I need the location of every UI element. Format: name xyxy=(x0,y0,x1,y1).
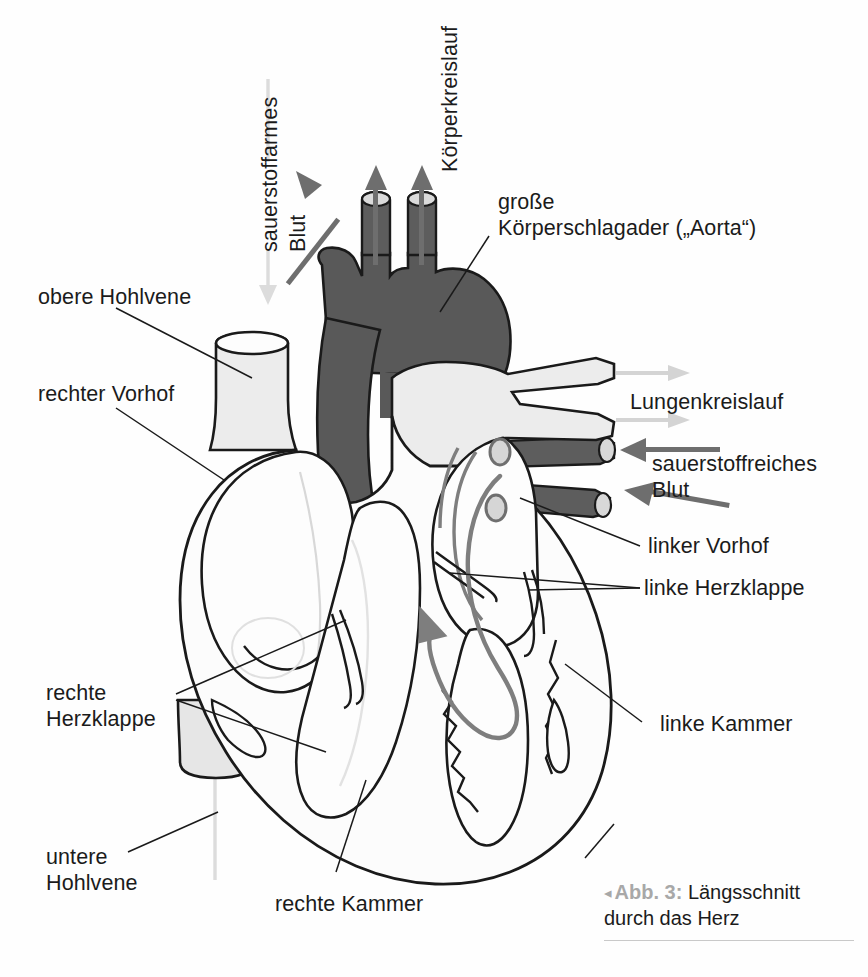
deoxy-arrow-head xyxy=(296,171,322,199)
pulmonary-vein-ostium-upper xyxy=(490,439,510,465)
figure-caption: ◂Abb. 3: Längsschnittdurch das Herz xyxy=(604,880,854,931)
label-left-ventricle: linke Kammer xyxy=(660,712,793,737)
systemic-arrow-2-shaft xyxy=(419,190,424,265)
label-deoxygenated-blood-line1: sauerstoffarmes xyxy=(258,97,283,252)
label-pulmonary-circulation: Lungenkreislauf xyxy=(630,390,783,415)
caption-figure-number: Abb. 3: xyxy=(615,881,683,903)
caption-divider xyxy=(604,940,854,941)
systemic-arrow-1-shaft xyxy=(373,190,378,265)
label-right-heart-valve-line2: Herzklappe xyxy=(46,707,156,732)
caption-text-line2: durch das Herz xyxy=(604,907,740,929)
label-left-atrium: linker Vorhof xyxy=(648,534,769,559)
label-aorta-line2: Körperschlagader („Aorta“) xyxy=(498,216,756,241)
caption-marker-icon: ◂ xyxy=(604,884,612,901)
label-right-ventricle: rechte Kammer xyxy=(275,892,423,917)
label-left-heart-valve: linke Herzklappe xyxy=(644,576,805,601)
pulmonary-vein-upper-lumen xyxy=(599,438,615,462)
label-deoxygenated-blood-line2: Blut xyxy=(286,215,311,252)
oxyrich-arrow-1-head xyxy=(620,438,646,462)
label-systemic-circulation: Körperkreislauf xyxy=(438,26,463,172)
label-oxygenated-blood-line1: sauerstoffreiches xyxy=(652,452,817,477)
figure-page: sauerstoffarmes Blut Körperkreislauf gro… xyxy=(0,0,868,977)
leader-right-atrium xyxy=(116,408,224,480)
pulmonary-arrow-1-head xyxy=(668,365,690,381)
left-atrium-chamber xyxy=(433,438,539,647)
caption-text-line1: Längsschnitt xyxy=(688,881,800,903)
superior-vena-cava-vessel xyxy=(210,332,296,450)
leader-caption xyxy=(585,824,614,858)
label-right-heart-valve-line1: rechte xyxy=(46,681,106,706)
label-inferior-vena-cava-line1: untere xyxy=(46,845,108,870)
leader-inferior-vena-cava xyxy=(128,812,218,852)
heart-cross-section-diagram xyxy=(0,0,868,977)
pulmonary-arrow-1-shaft xyxy=(616,371,674,375)
label-superior-vena-cava: obere Hohlvene xyxy=(38,285,191,310)
vena-cava-inflow-arrow-head xyxy=(259,285,277,305)
pulmonary-vein-ostium-lower xyxy=(486,495,506,521)
pulmonary-arrow-2-shaft xyxy=(616,418,674,422)
oxyrich-arrow-2-head xyxy=(624,482,655,506)
systemic-arrow-2-head xyxy=(411,165,433,190)
superior-vena-cava-opening xyxy=(216,332,288,354)
label-aorta-line1: große xyxy=(498,190,555,215)
pulmonary-vein-lower-lumen xyxy=(595,493,611,517)
label-right-atrium: rechter Vorhof xyxy=(38,382,174,407)
systemic-arrow-1-head xyxy=(365,165,387,190)
label-inferior-vena-cava-line2: Hohlvene xyxy=(46,871,138,896)
label-oxygenated-blood-line2: Blut xyxy=(652,478,689,503)
